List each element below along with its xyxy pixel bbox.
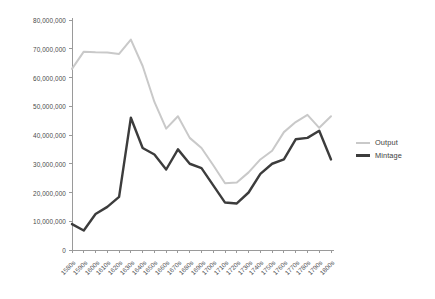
legend-label: Mintage: [375, 151, 402, 160]
line-chart: 010,000,00020,000,00030,000,00040,000,00…: [0, 0, 435, 299]
legend-swatch-output: [356, 142, 370, 144]
legend-swatch-mintage: [356, 154, 370, 157]
legend-item-mintage[interactable]: Mintage: [356, 149, 432, 162]
legend-label: Output: [375, 138, 398, 147]
chart-legend: OutputMintage: [356, 136, 432, 162]
legend-item-output[interactable]: Output: [356, 136, 432, 149]
